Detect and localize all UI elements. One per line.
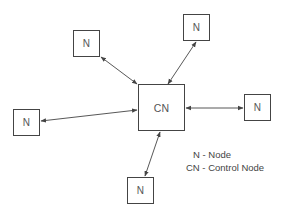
node-label: N — [193, 22, 200, 33]
node-top-left: N — [73, 30, 100, 57]
legend: N - Node CN - Control Node — [186, 148, 264, 174]
arrow-top-left-to-cn — [101, 57, 137, 84]
legend-control-node: CN - Control Node — [186, 161, 264, 174]
node-right: N — [244, 94, 271, 121]
control-node: CN — [138, 84, 185, 131]
node-label: N — [137, 185, 144, 196]
node-bottom: N — [127, 177, 154, 204]
node-top-right: N — [183, 14, 210, 41]
legend-node: N - Node — [186, 148, 264, 161]
arrow-left-to-cn — [41, 110, 137, 121]
arrow-cn-to-bottom — [145, 132, 160, 176]
node-label: N — [254, 102, 261, 113]
node-left: N — [13, 109, 40, 136]
node-label: N — [83, 38, 90, 49]
node-label: N — [23, 117, 30, 128]
arrow-top-right-to-cn — [168, 42, 196, 84]
control-node-label: CN — [154, 102, 170, 114]
network-diagram: CN N N N N N N - Node CN - Control Node — [0, 0, 286, 216]
